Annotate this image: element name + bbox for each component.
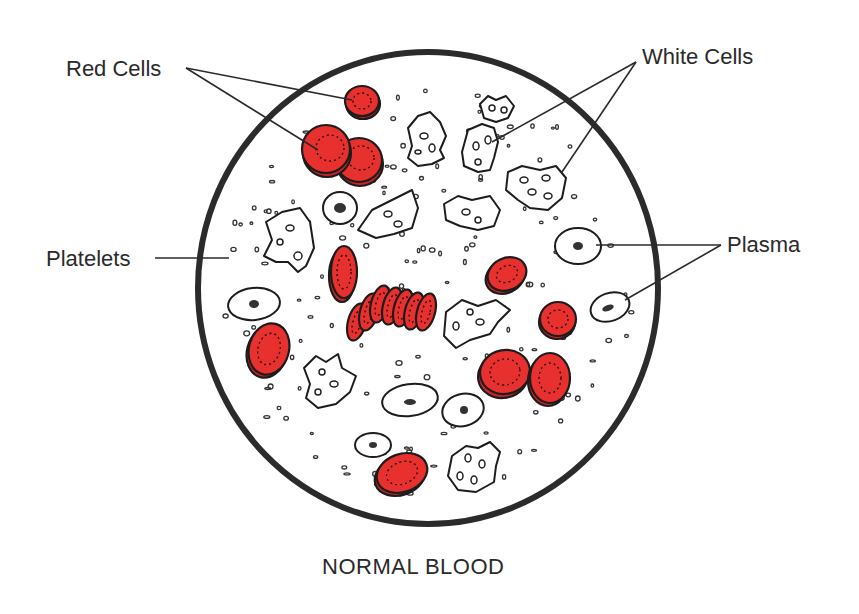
figure-caption: NORMAL BLOOD (322, 554, 504, 579)
red-cell (528, 353, 570, 406)
label-plasma: Plasma (727, 232, 801, 257)
white-cell (480, 96, 514, 122)
red-cell (345, 86, 380, 119)
red-cell (302, 125, 351, 177)
plasma-cell (555, 228, 601, 264)
plasma-cell (355, 433, 391, 457)
label-platelets: Platelets (46, 246, 130, 271)
blood-diagram: Red Cells White Cells Platelets Plasma N… (0, 0, 859, 614)
plasma-cell (323, 192, 357, 224)
label-red-cells: Red Cells (66, 56, 161, 81)
red-cell (539, 302, 576, 339)
label-white-cells: White Cells (642, 44, 753, 69)
white-cell (462, 124, 498, 172)
